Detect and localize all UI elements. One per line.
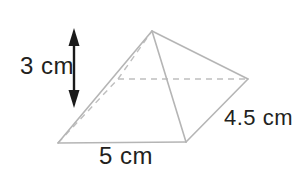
pyramid-figure: 3 cm 5 cm 4.5 cm [0,0,306,169]
edge-front-left-to-apex [58,31,152,143]
edge-apex-to-back-right [152,31,248,79]
height-arrow-head-up [69,28,80,46]
visible-edges-group [58,31,248,143]
height-arrow-head-down [69,90,80,108]
height-label: 3 cm [20,54,74,78]
base-depth-label: 4.5 cm [224,107,293,129]
hidden-edges-group [58,31,248,143]
edge-apex-to-front-right [152,31,186,142]
base-width-label: 5 cm [99,144,153,168]
